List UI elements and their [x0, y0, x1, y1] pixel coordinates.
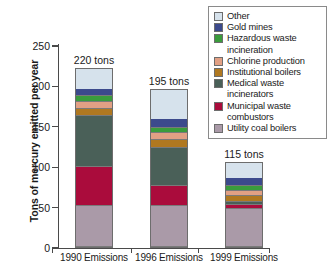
bar-segment-chlorine-production — [76, 102, 112, 109]
y-tick-label-200: 200 — [18, 80, 50, 92]
legend-label: Other — [227, 11, 250, 22]
chart-legend: OtherGold minesHazardous waste incinerat… — [208, 6, 327, 139]
bar-segment-medical-waste-incinerators — [151, 148, 187, 186]
bar-segment-institutional-boilers — [151, 140, 187, 148]
bar-segment-utility-coal-boilers — [226, 209, 262, 247]
bar-total-label-1999: 115 tons — [209, 148, 279, 160]
legend-item[interactable]: Medical waste incinerators — [213, 78, 323, 100]
legend-item[interactable]: Hazardous waste incineration — [213, 33, 323, 55]
bar-segment-other — [76, 69, 112, 89]
legend-label: Chlorine production — [227, 56, 305, 67]
bar-segment-other — [151, 90, 187, 120]
legend-item[interactable]: Chlorine production — [213, 56, 323, 67]
bar-segment-gold-mines — [76, 89, 112, 96]
x-axis-separator-1 — [131, 248, 132, 253]
y-tick-label-0: 0 — [18, 242, 50, 254]
x-axis-label-1996: 1996 Emissions — [131, 252, 207, 263]
x-axis-label-1990: 1990 Emissions — [56, 252, 132, 263]
legend-swatch-icon — [214, 102, 223, 111]
bar-segment-municipal-waste-combustors — [151, 186, 187, 206]
bar-1990 — [75, 68, 113, 248]
legend-label: Gold mines — [227, 22, 273, 33]
y-tick-label-50: 50 — [18, 202, 50, 214]
legend-swatch-icon — [214, 57, 223, 66]
legend-item[interactable]: Municipal waste combustors — [213, 101, 323, 123]
bar-segment-medical-waste-incinerators — [76, 116, 112, 167]
legend-swatch-icon — [214, 124, 223, 133]
bar-total-label-1996: 195 tons — [134, 75, 204, 87]
legend-item[interactable]: Other — [213, 11, 323, 22]
legend-item[interactable]: Institutional boilers — [213, 67, 323, 78]
legend-label: Medical waste incinerators — [227, 78, 284, 100]
x-axis-separator-0 — [52, 248, 53, 253]
bar-1999 — [225, 162, 263, 248]
legend-swatch-icon — [214, 23, 223, 32]
bar-segment-utility-coal-boilers — [76, 206, 112, 247]
legend-label: Institutional boilers — [227, 67, 301, 78]
y-tick-label-150: 150 — [18, 121, 50, 133]
legend-swatch-icon — [214, 12, 223, 21]
legend-item[interactable]: Gold mines — [213, 22, 323, 33]
legend-label: Municipal waste combustors — [227, 101, 291, 123]
bar-segment-other — [226, 163, 262, 179]
bar-1996 — [150, 89, 188, 248]
x-axis-separator-2 — [198, 248, 199, 253]
legend-swatch-icon — [214, 34, 223, 43]
bar-total-label-1990: 220 tons — [59, 54, 129, 66]
legend-item[interactable]: Utility coal boilers — [213, 123, 323, 134]
x-axis-label-1999: 1999 Emissions — [206, 252, 282, 263]
legend-label: Hazardous waste incineration — [227, 33, 297, 55]
legend-swatch-icon — [214, 79, 223, 88]
bar-segment-chlorine-production — [151, 133, 187, 140]
y-tick-label-250: 250 — [18, 40, 50, 52]
x-axis-separator-3 — [269, 248, 270, 253]
mercury-emissions-chart: Tons of mercury emitted per year 0501001… — [0, 0, 329, 279]
bar-segment-utility-coal-boilers — [151, 206, 187, 247]
bar-segment-gold-mines — [226, 178, 262, 186]
bar-segment-gold-mines — [151, 119, 187, 128]
y-tick-label-100: 100 — [18, 161, 50, 173]
bar-segment-institutional-boilers — [76, 109, 112, 116]
legend-swatch-icon — [214, 68, 223, 77]
bar-segment-municipal-waste-combustors — [76, 167, 112, 206]
legend-label: Utility coal boilers — [227, 123, 296, 134]
